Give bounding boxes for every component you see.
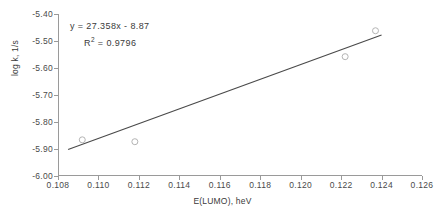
y-axis-title: log k, 1/s <box>10 62 20 76</box>
y-axis-tick-label: -5.50 <box>32 37 53 46</box>
x-axis-tick-mark <box>179 176 180 180</box>
y-axis-tick-mark <box>54 95 58 96</box>
x-axis-tick-label: 0.110 <box>87 181 109 190</box>
y-axis-tick-label: -5.80 <box>32 118 53 127</box>
scatter-chart: -5.40-5.50-5.60-5.70-5.80-5.90-6.00 0.10… <box>0 0 445 222</box>
x-axis-tick-label: 0.122 <box>330 181 353 190</box>
y-axis-tick-label: -5.60 <box>32 64 53 73</box>
r-squared-prefix: R <box>84 38 91 48</box>
y-axis-tick-mark <box>54 14 58 15</box>
x-axis-tick-mark <box>422 176 423 180</box>
x-axis-tick-label: 0.112 <box>128 181 150 190</box>
y-axis-tick-mark <box>54 149 58 150</box>
x-axis-tick-label: 0.108 <box>47 181 70 190</box>
x-axis-tick-mark <box>382 176 383 180</box>
x-axis-tick-mark <box>260 176 261 180</box>
x-axis-tick-label: 0.118 <box>249 181 271 190</box>
data-point-marker <box>79 137 85 143</box>
y-axis-tick-mark <box>54 41 58 42</box>
x-axis-tick-label: 0.116 <box>209 181 231 190</box>
x-axis-tick-label: 0.124 <box>370 181 393 190</box>
y-axis-tick-label: -5.70 <box>32 91 53 100</box>
x-axis-tick-mark <box>98 176 99 180</box>
data-point-marker <box>372 28 378 34</box>
x-axis-tick-mark <box>139 176 140 180</box>
y-axis-tick-label: -5.90 <box>32 145 53 154</box>
data-point-marker <box>132 139 138 145</box>
x-axis-tick-mark <box>220 176 221 180</box>
y-axis-tick-mark <box>54 122 58 123</box>
y-axis-tick-mark <box>54 68 58 69</box>
x-axis-tick-mark <box>58 176 59 180</box>
regression-annotation: y = 27.358x - 8.87 R2 = 0.9796 <box>70 20 150 50</box>
x-axis-tick-mark <box>301 176 302 180</box>
data-point-marker <box>342 54 348 60</box>
x-axis-tick-label: 0.120 <box>289 181 312 190</box>
r-squared-value: = 0.9796 <box>95 38 136 48</box>
trend-line-group <box>68 35 381 149</box>
x-axis-tick-label: 0.114 <box>168 181 190 190</box>
x-axis-tick-label: 0.126 <box>411 181 434 190</box>
x-axis-title: E(LUMO), heV <box>0 196 445 206</box>
y-axis-tick-label: -6.00 <box>32 172 53 181</box>
x-axis-tick-mark <box>341 176 342 180</box>
regression-equation: y = 27.358x - 8.87 <box>70 20 150 33</box>
r-squared-label: R2 = 0.9796 <box>70 33 150 50</box>
trend-line <box>68 35 381 149</box>
y-axis-tick-label: -5.40 <box>32 10 53 19</box>
